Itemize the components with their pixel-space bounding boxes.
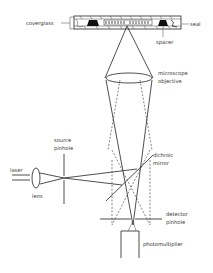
label-detector-pinhole-2: pinhole: [166, 219, 185, 226]
label-lens: lens: [32, 193, 43, 199]
label-source-pinhole-1: source: [54, 137, 71, 143]
label-laser: laser: [10, 167, 24, 173]
label-coverglass: coverglass: [26, 20, 54, 27]
spacer-right: [158, 20, 168, 26]
label-photomultiplier: photomultiplier: [143, 241, 184, 248]
label-detector-pinhole-1: detector: [166, 211, 189, 217]
label-dichroic-1: dichroic: [153, 152, 174, 158]
excitation-beam-lower: [64, 178, 122, 185]
dichroic-mirror: [106, 155, 153, 201]
objective-lens: [106, 73, 152, 83]
label-objective-2: objective: [158, 78, 182, 85]
beam-upper-right: [127, 26, 153, 78]
beam-solid-right: [133, 80, 152, 225]
lens: [32, 168, 40, 188]
label-dichroic-2: mirror: [153, 160, 170, 166]
label-source-pinhole-2: pinhole: [54, 145, 73, 152]
excitation-beam-upper: [64, 169, 137, 178]
beam-dashed-left-upper: [108, 80, 120, 150]
photomultiplier: [121, 231, 139, 258]
beam-solid-left: [106, 80, 133, 225]
beam-dashed-right-upper: [140, 80, 152, 150]
label-spacer: spacer: [156, 39, 174, 46]
label-seal: seal: [190, 21, 201, 27]
label-objective-1: microscope: [158, 70, 188, 77]
confocal-diagram: coverglass seal spacer microscope object…: [0, 0, 213, 273]
spacer-left: [87, 20, 99, 26]
beam-upper-left: [105, 26, 127, 78]
